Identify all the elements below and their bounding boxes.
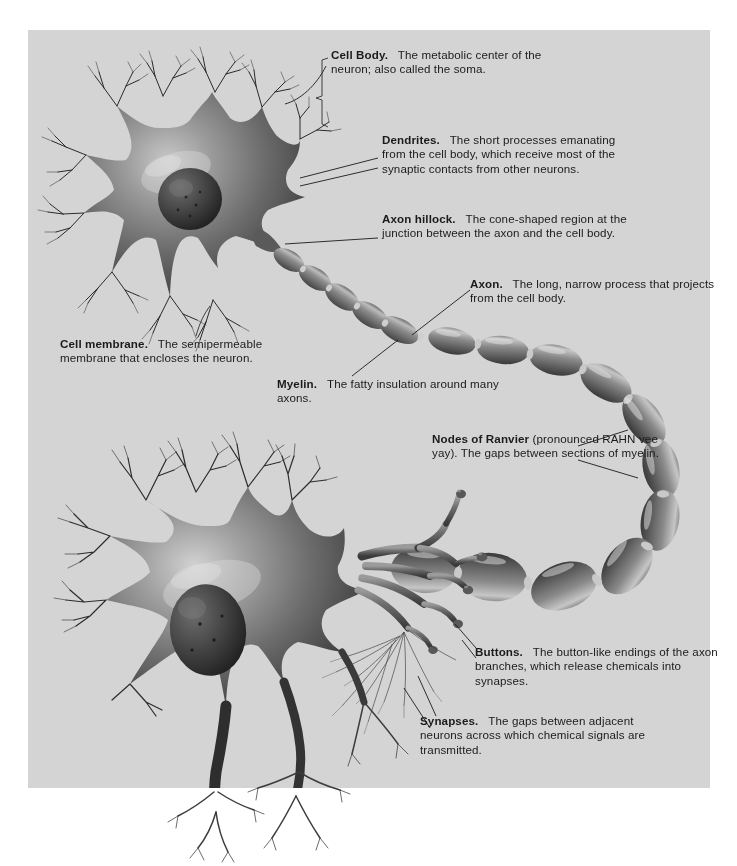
callout-dendrites-term: Dendrites.: [382, 133, 440, 146]
leader-axon-hillock: [285, 238, 378, 244]
callout-axon-hillock: Axon hillock. The cone-shaped region at …: [382, 212, 632, 241]
neuron-diagram-figure: Cell Body. The metabolic center of the n…: [0, 0, 737, 866]
leader-dendrites-2: [300, 168, 378, 186]
leader-nodes-2: [578, 460, 638, 478]
leader-cell-body: [285, 66, 326, 104]
callout-buttons: Buttons. The button-like endings of the …: [475, 645, 725, 688]
callout-synapses: Synapses. The gaps between adjacent neur…: [420, 714, 670, 757]
leader-synapses-1: [418, 676, 436, 716]
callout-nodes-of-ranvier-term: Nodes of Ranvier: [432, 432, 529, 445]
callout-cell-body: Cell Body. The metabolic center of the n…: [331, 48, 581, 77]
callout-dendrites: Dendrites. The short processes emanating…: [382, 133, 632, 176]
leader-cell-body-bracket: [316, 58, 328, 127]
leader-buttons-2: [462, 640, 476, 658]
callout-myelin-term: Myelin.: [277, 377, 317, 390]
leader-dendrites-1: [300, 158, 378, 178]
callout-synapses-term: Synapses.: [420, 714, 478, 727]
callout-myelin: Myelin. The fatty insulation around many…: [277, 377, 537, 406]
callout-cell-membrane-term: Cell membrane.: [60, 337, 148, 350]
callout-axon-term: Axon.: [470, 277, 503, 290]
callout-buttons-term: Buttons.: [475, 645, 523, 658]
leader-myelin: [352, 340, 398, 376]
top-myelin-chain: [270, 243, 426, 350]
callout-axon: Axon. The long, narrow process that proj…: [470, 277, 720, 306]
callout-cell-membrane: Cell membrane. The semipermeable membran…: [60, 337, 290, 366]
callout-cell-body-term: Cell Body.: [331, 48, 388, 61]
callout-axon-hillock-term: Axon hillock.: [382, 212, 456, 225]
callout-nodes-of-ranvier: Nodes of Ranvier (pronounced RAHN vee ya…: [432, 432, 672, 461]
lower-dendrite-twigs: [168, 702, 408, 862]
top-neuron: [38, 47, 425, 351]
lower-dendrite-trunks: [215, 652, 365, 812]
top-neuron-nucleus: [158, 168, 222, 230]
top-neuron-axon-hillock: [253, 228, 282, 252]
